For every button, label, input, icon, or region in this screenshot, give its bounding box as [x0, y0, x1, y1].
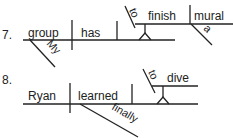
diagram-number: 8. — [2, 73, 12, 87]
infinitive-marker-word: to — [127, 6, 142, 19]
diagram-8: 8. Ryan learned finally to dive — [2, 68, 198, 137]
phrase-verb-word: finish — [148, 9, 176, 23]
phrase-verb-word: dive — [167, 71, 189, 85]
subject-word: Ryan — [28, 89, 56, 103]
sentence-diagrams: 7. group has My to finish mural a 8. Rya… — [0, 0, 233, 138]
verb-word: has — [81, 26, 100, 40]
diagram-number: 7. — [2, 28, 12, 42]
diagram-7: 7. group has My to finish mural a — [2, 5, 233, 67]
phrase-object-word: mural — [194, 9, 224, 23]
pedestal-foot — [157, 97, 169, 104]
verb-word: learned — [78, 89, 118, 103]
pedestal-foot — [139, 33, 151, 40]
